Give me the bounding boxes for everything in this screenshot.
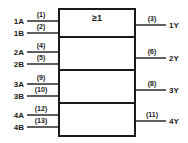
input-label-4b: 4B xyxy=(14,123,24,132)
pin-number-2y: (6) xyxy=(148,48,157,56)
pin-number-4b: (13) xyxy=(35,117,47,125)
output-label-4y: 4Y xyxy=(169,117,179,126)
pin-number-1y: (3) xyxy=(148,15,157,23)
pin-number-2b: (5) xyxy=(37,54,46,62)
pin-number-4y: (11) xyxy=(146,111,158,119)
pin-number-1b: (2) xyxy=(37,23,46,31)
input-label-1a: 1A xyxy=(14,17,24,26)
ic-body-outline xyxy=(59,9,135,136)
diagram-canvas: ≥1 1A (1) 1B (2) 1Y (3) 2A (4) 2B (5) 2Y… xyxy=(0,0,188,143)
pin-number-2a: (4) xyxy=(37,42,46,50)
output-label-2y: 2Y xyxy=(169,54,179,63)
output-label-1y: 1Y xyxy=(169,21,179,30)
input-label-2b: 2B xyxy=(14,60,24,69)
pin-number-3b: (10) xyxy=(35,86,47,94)
input-label-1b: 1B xyxy=(14,29,24,38)
input-label-3a: 3A xyxy=(14,80,24,89)
input-label-4a: 4A xyxy=(14,111,24,120)
or-gate-qualifying-symbol: ≥1 xyxy=(92,13,102,23)
input-label-3b: 3B xyxy=(14,92,24,101)
pin-number-3y: (8) xyxy=(148,80,157,88)
logic-symbol-diagram: ≥1 1A (1) 1B (2) 1Y (3) 2A (4) 2B (5) 2Y… xyxy=(0,0,188,143)
output-label-3y: 3Y xyxy=(169,86,179,95)
input-label-2a: 2A xyxy=(14,48,24,57)
pin-number-3a: (9) xyxy=(37,74,46,82)
pin-number-4a: (12) xyxy=(35,105,47,113)
pin-number-1a: (1) xyxy=(37,11,46,19)
